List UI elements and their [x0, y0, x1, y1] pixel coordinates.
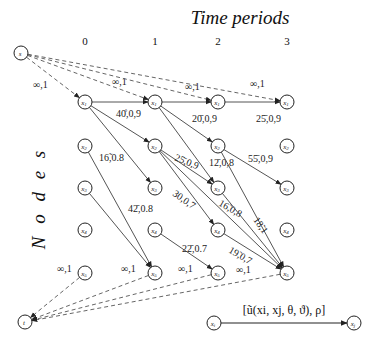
nodes-axis-title: N o d e s: [28, 147, 49, 251]
node-t3-x2: x2: [280, 139, 294, 153]
edge-label: 30,0,7: [171, 188, 198, 211]
edge-label: 25̄,0,9: [173, 152, 200, 172]
node-t2-x5: x5: [211, 266, 225, 280]
edge-label: 12̄,0,8: [209, 157, 234, 168]
edge-label: ∞,1: [33, 79, 48, 90]
edge-label: 55̄,0,9: [248, 153, 273, 164]
node-t2-x4: x4: [211, 223, 225, 237]
sink-edge: [32, 275, 149, 319]
legend-node-from: xi: [207, 316, 221, 330]
node-t1-x5: x5: [148, 266, 162, 280]
node-t0-x3: x3: [78, 181, 92, 195]
node-t1-x1: x1: [148, 95, 162, 109]
node-subscript: 1: [286, 102, 289, 107]
legend-node-to: xj: [347, 316, 361, 330]
node-t0-x2: x2: [78, 139, 92, 153]
network-diagram: Time periods 0123 N o d e s ∞,1∞,1∞,1∞,1…: [0, 0, 379, 354]
edge-label: ∞,1: [250, 78, 265, 89]
node-t0-x1: x1: [78, 95, 92, 109]
legend: [ũ(xi, xj, θ, ϑ), ρ]: [221, 303, 347, 323]
node-t2-x2: x2: [211, 139, 225, 153]
time-tick-0: 0: [82, 35, 88, 47]
node-t1-x2: x2: [148, 139, 162, 153]
edge-label: 42̄,0.8: [128, 203, 153, 214]
node-t1-x4: x4: [148, 223, 162, 237]
edge-label: ∞,1: [121, 263, 136, 274]
time-axis-ticks: 0123: [82, 35, 290, 47]
time-periods-title: Time periods: [191, 7, 290, 28]
source-edge: [27, 57, 80, 97]
node-subscript: 1: [217, 102, 220, 107]
source-edge: [28, 55, 211, 101]
node-t3-x5: x5: [280, 266, 294, 280]
node-t3-x4: x4: [280, 223, 294, 237]
node-t0-x4: x4: [78, 223, 92, 237]
edge-label: 25̄,0,9: [256, 113, 281, 124]
edge-label: 16̃,0.8: [99, 152, 124, 163]
arc-edge: [160, 151, 282, 268]
arc-edge: [161, 106, 213, 142]
node-circle: [18, 315, 32, 329]
node-t2-x3: x3: [211, 181, 225, 195]
time-tick-3: 3: [284, 35, 290, 47]
time-expanded-network: Time periods 0123 N o d e s ∞,1∞,1∞,1∞,1…: [0, 0, 379, 354]
node-label: s: [19, 50, 22, 58]
node-t0-x5: x5: [78, 266, 92, 280]
node-t3-x1: x1: [280, 95, 294, 109]
sink-node: t: [18, 315, 32, 329]
edge-label: 40̊,0,9: [116, 108, 141, 119]
node-t1-x3: x3: [148, 181, 162, 195]
sink-edge: [30, 277, 79, 317]
edge-label: ∞,1: [57, 263, 72, 274]
edge-label: ∞,1: [185, 81, 200, 92]
node-t2-x1: x1: [211, 95, 225, 109]
node-subscript: 1: [154, 102, 157, 107]
edge-label: 20̄,0,9: [192, 113, 217, 124]
source-edge: [28, 55, 149, 99]
legend-edge-label: [ũ(xi, xj, θ, ϑ), ρ]: [243, 303, 325, 317]
source-node: s: [14, 46, 28, 60]
edge-label: 22̄,0.7: [182, 243, 207, 254]
edge-label: 19̃,0,7: [227, 244, 254, 266]
time-tick-1: 1: [152, 35, 158, 47]
source-edge: [28, 54, 280, 100]
edge-label: ∞,1: [178, 263, 193, 274]
node-t3-x3: x3: [280, 181, 294, 195]
node-subscript: 1: [84, 102, 87, 107]
time-tick-2: 2: [215, 35, 221, 47]
sink-edge: [32, 275, 211, 321]
